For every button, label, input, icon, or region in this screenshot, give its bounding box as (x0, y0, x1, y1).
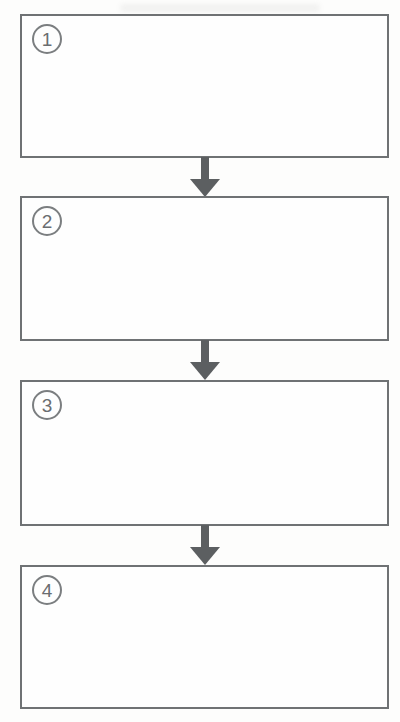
step-box-2: 2 (20, 196, 389, 341)
step-box-3: 3 (20, 380, 389, 526)
step-box-4: 4 (20, 565, 389, 709)
step-number-badge: 2 (32, 206, 62, 236)
down-arrow-icon (189, 340, 221, 380)
down-arrow-icon (189, 157, 221, 197)
flow-diagram: 1 2 3 4 (0, 0, 400, 722)
step-number-badge: 3 (32, 390, 62, 420)
arrow-head (190, 547, 220, 565)
step-number-badge: 1 (32, 24, 62, 54)
step-number-badge: 4 (32, 575, 62, 605)
arrow-shaft (201, 157, 209, 181)
arrow-shaft (201, 525, 209, 549)
step-box-1: 1 (20, 14, 389, 158)
arrow-head (190, 179, 220, 197)
arrow-head (190, 362, 220, 380)
arrow-shaft (201, 340, 209, 364)
down-arrow-icon (189, 525, 221, 565)
scan-artifact (120, 4, 320, 12)
